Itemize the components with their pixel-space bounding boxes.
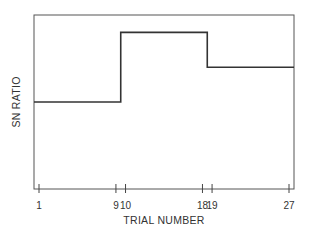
x-tick-label: 10: [120, 200, 132, 211]
x-tick-label: 9: [113, 200, 119, 211]
x-tick-label: 27: [283, 200, 295, 211]
y-axis-title: SN RATIO: [10, 76, 22, 127]
x-tick-labels: 1910181927: [36, 200, 295, 211]
step-line: [34, 32, 294, 102]
x-tick-label: 19: [207, 200, 219, 211]
x-tick-label: 1: [36, 200, 42, 211]
x-axis-title: TRIAL NUMBER: [123, 214, 205, 226]
chart: 1910181927 TRIAL NUMBER SN RATIO: [0, 0, 309, 238]
